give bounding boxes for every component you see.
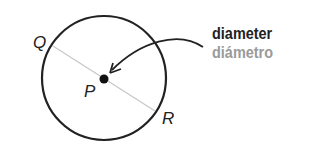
center-point [100,75,109,84]
point-label-r: R [162,110,174,127]
point-label-p: P [84,83,95,100]
term-spanish: diámetro [212,44,273,61]
arrowhead-icon [110,63,121,73]
point-label-q: Q [33,34,46,51]
term-english: diameter [212,25,272,42]
arrow-curve [112,39,203,70]
